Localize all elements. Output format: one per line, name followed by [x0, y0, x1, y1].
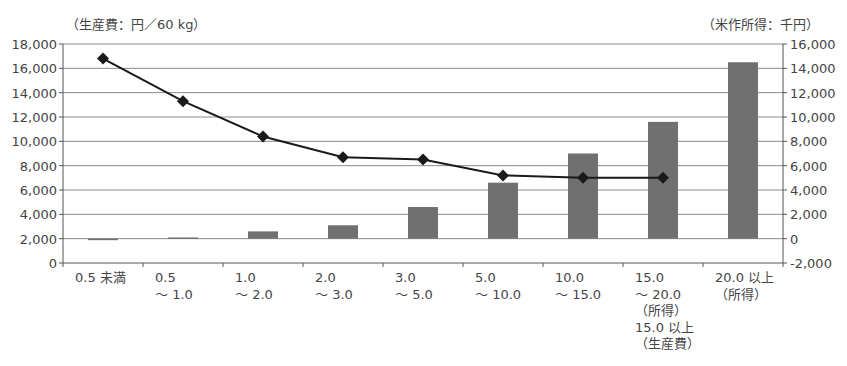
diamond-marker-icon — [257, 130, 269, 142]
income-bar — [328, 225, 358, 238]
income-bar — [728, 62, 758, 238]
left-tick-label: 18,000 — [12, 37, 58, 52]
diamond-marker-icon — [497, 169, 509, 181]
right-tick-label: 4,000 — [790, 183, 827, 198]
diamond-marker-icon — [337, 151, 349, 163]
left-tick-label: 16,000 — [12, 61, 58, 76]
x-category-label: 0.5 未満 — [75, 270, 155, 287]
income-bar — [488, 183, 518, 239]
right-tick-label: 16,000 — [790, 37, 836, 52]
income-bar — [248, 231, 278, 238]
combo-chart: 02,0004,0006,0008,00010,00012,00014,0001… — [0, 0, 847, 366]
x-category-label: 20.0 以上 （所得） — [715, 270, 795, 303]
left-tick-label: 10,000 — [12, 134, 58, 149]
left-tick-label: 6,000 — [20, 183, 57, 198]
right-tick-label: 0 — [790, 232, 798, 247]
right-tick-label: 2,000 — [790, 207, 827, 222]
income-bar — [568, 154, 598, 239]
x-category-label: 0.5 ～ 1.0 — [155, 270, 235, 303]
right-tick-label: -2,000 — [790, 256, 832, 271]
diamond-marker-icon — [97, 53, 109, 65]
x-category-label: 2.0 ～ 3.0 — [315, 270, 395, 303]
x-category-label: 10.0 ～ 15.0 — [555, 270, 635, 303]
left-tick-label: 2,000 — [20, 232, 57, 247]
x-category-label: 1.0 ～ 2.0 — [235, 270, 315, 303]
left-tick-label: 4,000 — [20, 207, 57, 222]
left-tick-label: 8,000 — [20, 159, 57, 174]
x-category-label: 15.0 ～ 20.0 （所得） 15.0 以上 （生産費） — [635, 270, 715, 353]
income-bar — [168, 237, 198, 239]
x-category-label: 5.0 ～ 10.0 — [475, 270, 555, 303]
right-tick-label: 12,000 — [790, 86, 836, 101]
right-tick-label: 8,000 — [790, 134, 827, 149]
diamond-marker-icon — [417, 154, 429, 166]
left-tick-label: 12,000 — [12, 110, 58, 125]
right-tick-label: 14,000 — [790, 61, 836, 76]
left-tick-label: 0 — [49, 256, 57, 271]
income-bar — [408, 207, 438, 239]
right-tick-label: 10,000 — [790, 110, 836, 125]
income-bar — [88, 239, 118, 241]
left-tick-label: 14,000 — [12, 86, 58, 101]
diamond-marker-icon — [177, 95, 189, 107]
right-tick-label: 6,000 — [790, 159, 827, 174]
x-category-label: 3.0 ～ 5.0 — [395, 270, 475, 303]
